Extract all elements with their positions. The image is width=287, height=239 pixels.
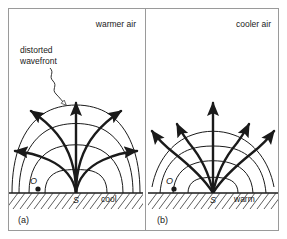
panel-b-air-label: cooler air: [236, 19, 271, 29]
panel-a-source-label: S: [73, 195, 79, 205]
panel-b-observer-dot: [171, 186, 176, 191]
panel-a-annotation-line2: wavefront: [19, 56, 57, 66]
diagram-svg: warmer air disto: [0, 0, 287, 239]
panel-a-annotation-line1: distorted: [20, 45, 53, 55]
panel-a-observer-dot: [35, 186, 40, 191]
panel-b-ground-label: warm: [233, 194, 255, 204]
panel-a-observer-label: O: [30, 176, 37, 186]
figure-container: warmer air disto: [0, 0, 287, 239]
panel-a-caption: (a): [18, 215, 29, 225]
panel-b-source-label: S: [210, 195, 216, 205]
panel-a-air-label: warmer air: [95, 19, 136, 29]
panel-b-observer-label: O: [166, 176, 173, 186]
panel-a-ground-label: cool: [101, 194, 117, 204]
panel-b-caption: (b): [157, 215, 168, 225]
